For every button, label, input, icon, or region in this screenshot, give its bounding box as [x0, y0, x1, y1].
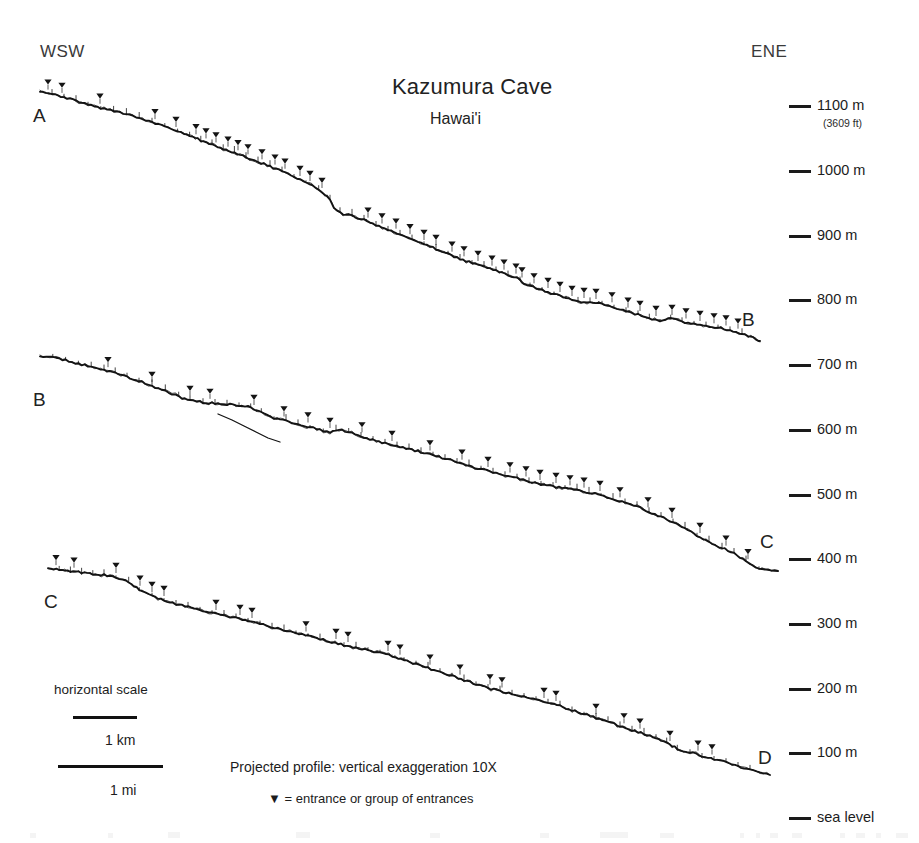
entrance-marker	[52, 555, 59, 560]
entrance-marker	[44, 79, 51, 84]
elevation-tick-mark	[789, 105, 811, 108]
entrance-marker	[248, 608, 255, 613]
entrance-marker	[620, 713, 627, 718]
elevation-tick-label: 1100 m	[817, 98, 864, 113]
passage-detail-3	[59, 566, 750, 769]
elevation-tick-label: 300 m	[817, 616, 857, 631]
entrance-marker	[596, 481, 603, 486]
entrance-marker	[734, 318, 741, 323]
entrance-marker	[530, 273, 537, 278]
entrance-marker	[592, 289, 599, 294]
elevation-tick-label: 400 m	[817, 551, 857, 566]
segment-endpoint-label: C	[760, 532, 774, 551]
segment-endpoint-label: D	[758, 748, 772, 767]
entrance-marker	[556, 282, 563, 287]
passage-detail-1	[52, 90, 742, 335]
entrance-marker	[580, 477, 587, 482]
entrance-marker	[280, 406, 287, 411]
entrance-marker	[522, 466, 529, 471]
cave-profile-figure: WSW ENE Kazumura Cave Hawai'i ABBCCD 110…	[0, 0, 919, 843]
compass-label-ene: ENE	[751, 43, 787, 60]
profile-line-secondary-2	[40, 355, 778, 572]
entrance-marker	[302, 621, 309, 626]
elevation-tick-mark	[789, 494, 811, 497]
entrance-marker	[456, 664, 463, 669]
entrance-marker	[708, 744, 715, 749]
elevation-tick-mark	[789, 170, 811, 173]
entrance-marker	[624, 297, 631, 302]
entrance-marker	[250, 395, 257, 400]
entrance-marker	[710, 313, 717, 318]
segment-endpoint-label: B	[742, 310, 755, 329]
entrance-marker	[396, 644, 403, 649]
entrance-marker	[668, 305, 675, 310]
entrance-marker	[358, 422, 365, 427]
scale-bar	[73, 716, 137, 719]
entrance-legend-note: ▼ = entrance or group of entrances	[268, 792, 473, 805]
entrance-marker	[234, 140, 241, 145]
entrance-marker	[566, 475, 573, 480]
elevation-tick-mark	[789, 817, 811, 820]
profile-line-3	[48, 568, 770, 775]
entrance-marker	[696, 523, 703, 528]
elevation-tick-mark	[789, 558, 811, 561]
entrance-marker	[518, 267, 525, 272]
entrance-marker	[160, 586, 167, 591]
elevation-tick-mark	[789, 364, 811, 367]
entrance-marker	[682, 308, 689, 313]
entrance-marker	[722, 535, 729, 540]
entrance-marker	[344, 632, 351, 637]
branch-passage-2	[218, 414, 280, 442]
entrance-marker	[536, 470, 543, 475]
entrance-marker	[202, 128, 209, 133]
entrance-marker	[306, 171, 313, 176]
entrance-marker	[271, 154, 278, 159]
entrance-marker	[244, 144, 251, 149]
entrance-marker	[488, 255, 495, 260]
entrance-marker	[420, 230, 427, 235]
entrance-marker	[378, 213, 385, 218]
entrance-marker	[636, 301, 643, 306]
entrance-marker	[212, 132, 219, 137]
entrance-marker	[694, 740, 701, 745]
entrance-marker	[96, 94, 103, 99]
horizontal-scale-title: horizontal scale	[54, 683, 148, 697]
elevation-tick-mark	[789, 688, 811, 691]
entrance-marker	[304, 412, 311, 417]
entrance-marker	[364, 207, 371, 212]
entrance-marker	[668, 508, 675, 513]
projection-note: Projected profile: vertical exaggeration…	[230, 760, 497, 774]
entrance-marker	[148, 582, 155, 587]
profile-line-2	[40, 356, 778, 571]
entrance-marker	[544, 278, 551, 283]
entrance-marker	[666, 731, 673, 736]
entrance-marker	[552, 691, 559, 696]
passage-detail-2	[53, 354, 759, 568]
segment-endpoint-label: A	[33, 106, 46, 125]
segment-endpoint-label: C	[44, 592, 58, 611]
entrance-marker	[392, 218, 399, 223]
figure-subtitle: Hawai'i	[430, 111, 481, 127]
entrance-marker	[151, 109, 158, 114]
scale-bar-label: 1 mi	[110, 783, 136, 797]
profile-line-secondary-3	[48, 569, 770, 775]
entrance-marker	[500, 259, 507, 264]
entrance-marker	[212, 600, 219, 605]
entrance-marker	[112, 563, 119, 568]
entrance-marker	[552, 473, 559, 478]
profile-line-1	[40, 92, 760, 341]
compass-label-wsw: WSW	[40, 43, 85, 60]
entrance-marker	[592, 704, 599, 709]
entrance-marker	[388, 431, 395, 436]
entrance-marker	[484, 457, 491, 462]
entrance-marker	[512, 263, 519, 268]
elevation-tick-label: 600 m	[817, 422, 857, 437]
entrance-marker	[236, 605, 243, 610]
scale-bar	[58, 765, 163, 768]
scale-bar-label: 1 km	[105, 733, 135, 747]
entrance-marker	[448, 241, 455, 246]
entrance-marker	[104, 357, 111, 362]
entrance-marker	[744, 549, 751, 554]
entrance-marker	[258, 149, 265, 154]
entrance-marker	[432, 235, 439, 240]
